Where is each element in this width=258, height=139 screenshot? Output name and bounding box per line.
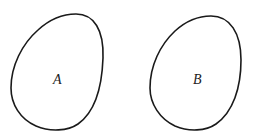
set-a: A <box>11 14 103 130</box>
set-b-label: B <box>193 72 202 87</box>
set-a-label: A <box>52 72 62 87</box>
set-b: B <box>150 16 241 130</box>
sets-diagram: A B <box>0 0 258 139</box>
